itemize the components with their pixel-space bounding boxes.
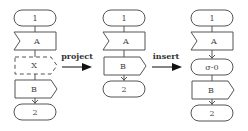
node-label: X bbox=[31, 61, 37, 70]
node-label: 1 bbox=[209, 14, 214, 23]
diagram-canvas: 1 A X B 2 project 1 A B 2 insert bbox=[0, 0, 248, 131]
node-label: 1 bbox=[32, 14, 37, 23]
node-label: σ-0 bbox=[205, 63, 218, 72]
node-label: B bbox=[31, 85, 37, 94]
column-projected: 1 A B 2 bbox=[103, 10, 146, 97]
node-label: A bbox=[33, 37, 40, 46]
arrow-right-icon bbox=[172, 63, 182, 71]
node-label: 1 bbox=[121, 14, 126, 23]
transition-label: project bbox=[61, 51, 93, 61]
node-label: B bbox=[208, 86, 214, 95]
node-label: 2 bbox=[209, 109, 214, 118]
transition-label: insert bbox=[153, 51, 180, 61]
node-label: A bbox=[122, 37, 129, 46]
column-inserted: 1 A σ-0 B 2 bbox=[191, 10, 234, 121]
arrow-right-icon bbox=[82, 63, 92, 71]
node-label: B bbox=[120, 62, 126, 71]
column-original: 1 A X B 2 bbox=[14, 10, 57, 120]
transition-insert: insert bbox=[152, 51, 182, 71]
node-label: 2 bbox=[32, 108, 37, 117]
node-label: A bbox=[210, 37, 217, 46]
transition-project: project bbox=[61, 51, 93, 71]
node-label: 2 bbox=[121, 85, 126, 94]
